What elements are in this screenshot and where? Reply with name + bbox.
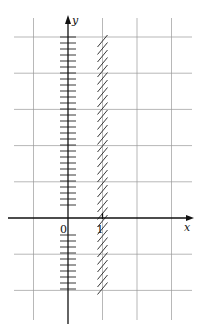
origin-label: 0 bbox=[60, 223, 67, 236]
y-axis-label: y bbox=[71, 14, 79, 27]
x-axis-label: x bbox=[184, 221, 191, 234]
x-tick-label-1: 1 bbox=[97, 223, 104, 236]
axes bbox=[8, 15, 194, 324]
y-axis-arrow-icon bbox=[65, 15, 71, 24]
coordinate-plane: x y 0 1 bbox=[0, 0, 201, 324]
marked-lines bbox=[60, 35, 108, 295]
